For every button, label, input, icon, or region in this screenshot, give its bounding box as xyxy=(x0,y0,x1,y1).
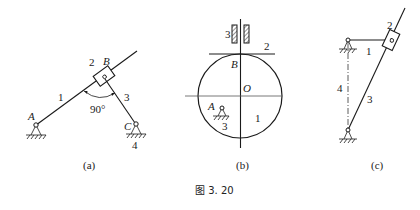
slider-2 xyxy=(382,30,400,51)
figure-caption: 图 3. 20 xyxy=(195,185,234,196)
angle-arc xyxy=(84,91,115,98)
guide-right xyxy=(244,25,249,43)
mechanism-diagram: 1 2 B 3 A C 4 90° (a) 3 2 xyxy=(0,0,420,210)
ground-pivot-a-icon xyxy=(26,123,46,139)
label-frame-4: 4 xyxy=(337,82,343,94)
label-joint-b: B xyxy=(103,55,110,67)
label-link-1: 1 xyxy=(366,45,372,57)
subfigure-a: 1 2 B 3 A C 4 90° (a) xyxy=(26,51,146,172)
label-cam-1: 1 xyxy=(255,112,261,124)
label-angle: 90° xyxy=(90,103,105,115)
subfigure-b: 3 2 B O A 1 3 (b) xyxy=(185,19,282,172)
ground-pivot-a-icon xyxy=(213,106,229,120)
label-guide-3: 3 xyxy=(225,28,231,40)
label-center-o: O xyxy=(243,82,251,94)
link-3 xyxy=(105,79,135,123)
slider-2 xyxy=(93,66,115,86)
label-frame-3: 3 xyxy=(222,120,228,132)
label-link-3: 3 xyxy=(124,91,130,103)
label-point-b: B xyxy=(231,58,238,70)
label-link-1: 1 xyxy=(58,91,64,103)
subfigure-c: 1 2 4 3 (c) xyxy=(337,8,405,172)
label-follower-2: 2 xyxy=(264,40,270,52)
link-1 xyxy=(38,51,138,124)
label-pivot-a: A xyxy=(207,100,215,112)
label-frame-4: 4 xyxy=(132,139,138,151)
caption-a: (a) xyxy=(83,159,96,172)
label-joint-a: A xyxy=(27,110,35,122)
ground-pivot-bottom-icon xyxy=(339,128,357,143)
link-3 xyxy=(348,8,405,130)
label-link-3: 3 xyxy=(367,93,373,105)
label-slider-2: 2 xyxy=(89,56,95,68)
label-slider-2: 2 xyxy=(387,19,393,31)
caption-c: (c) xyxy=(371,159,384,172)
label-joint-c: C xyxy=(124,120,132,132)
guide-left xyxy=(232,25,237,43)
caption-b: (b) xyxy=(236,159,249,172)
